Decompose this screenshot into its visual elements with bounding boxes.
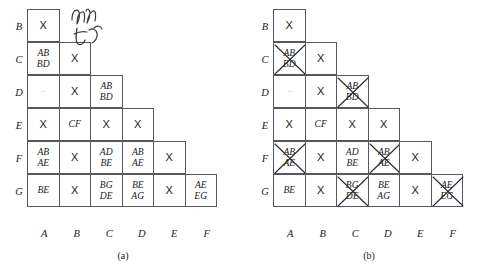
cell-text: X	[317, 152, 324, 163]
row-label-g: G	[12, 175, 26, 208]
row-label-f: F	[258, 142, 272, 175]
matrix-cell: X	[27, 9, 60, 42]
cell-text: AB	[37, 48, 49, 59]
matrix-cell: ABBD	[273, 42, 306, 75]
matrix-row: EXCFXX	[28, 109, 217, 142]
matrix-cell: BE	[273, 174, 306, 207]
matrix-cell: X	[59, 174, 92, 207]
row-label-d: D	[12, 76, 26, 109]
cell-text: AB	[283, 48, 295, 59]
matrix-cell: X	[27, 108, 60, 141]
matrix-cell: ABBD	[90, 75, 123, 108]
matrix-cell: X	[305, 75, 338, 108]
matrix-cell: BGDE	[336, 174, 369, 207]
matrix-cell: X	[273, 108, 306, 141]
cell-text: BD	[37, 59, 50, 70]
cell-text: AG	[377, 191, 390, 202]
matrix-cell: ABBD	[336, 75, 369, 108]
cell-text: BE	[378, 180, 390, 191]
matrix-row: FABAEXADBEABAEX	[28, 142, 217, 175]
column-labels-b: ABCDEF	[274, 228, 469, 239]
matrix-cell: –	[27, 75, 60, 108]
matrix-cell: X	[153, 141, 186, 174]
matrix-row: BX	[274, 10, 463, 43]
cell-text: X	[286, 20, 293, 31]
cell-text: BE	[283, 185, 295, 196]
cell-text: EG	[194, 191, 207, 202]
column-label-d: D	[372, 228, 405, 239]
matrix-row: D–XABBD	[28, 76, 217, 109]
cell-text: AB	[100, 81, 112, 92]
cell-text: AE	[441, 180, 453, 191]
matrix-cell: X	[336, 108, 369, 141]
cell-text: X	[412, 152, 419, 163]
column-label-a: A	[28, 228, 61, 239]
row-label-e: E	[12, 109, 26, 142]
figure-panel-b: BXCABBDXD–XABBDEXCFXXFABAEXADBEABAEXGBEX…	[246, 0, 492, 274]
row-label-f: F	[12, 142, 26, 175]
cell-text: AB	[378, 147, 390, 158]
cell-text: X	[317, 185, 324, 196]
column-label-c: C	[93, 228, 126, 239]
matrix-cell: X	[59, 75, 92, 108]
cell-text: X	[40, 119, 47, 130]
matrix-cell: ABAE	[368, 141, 401, 174]
panel-caption-b: (b)	[246, 250, 492, 261]
cell-text: X	[103, 119, 110, 130]
matrix-cell: AEEG	[185, 174, 218, 207]
cell-text: DE	[346, 191, 359, 202]
cell-text: CF	[315, 119, 327, 130]
cell-text: X	[317, 53, 324, 64]
cell-text: AB	[37, 147, 49, 158]
matrix-cell: X	[153, 174, 186, 207]
cell-text: AG	[131, 191, 144, 202]
row-label-e: E	[258, 109, 272, 142]
matrix-cell: CF	[59, 108, 92, 141]
matrix-cell: ADBE	[90, 141, 123, 174]
cell-text: X	[134, 119, 141, 130]
row-label-b: B	[12, 10, 26, 43]
matrix-cell: CF	[305, 108, 338, 141]
matrix-cell: AEEG	[431, 174, 464, 207]
matrix-cell: X	[305, 42, 338, 75]
matrix-cell: X	[305, 174, 338, 207]
cell-text: BE	[100, 158, 112, 169]
cell-text: X	[166, 152, 173, 163]
matrix-row: GBEXBGDEBEAGXAEEG	[274, 175, 463, 208]
matrix-row: FABAEXADBEABAEX	[274, 142, 463, 175]
cell-text: AE	[195, 180, 207, 191]
cell-text: BG	[100, 180, 113, 191]
cell-text: X	[412, 185, 419, 196]
matrix-cell: ABAE	[27, 141, 60, 174]
cell-text: AD	[346, 147, 359, 158]
cell-text: X	[286, 119, 293, 130]
cell-text: X	[71, 53, 78, 64]
cell-text: BD	[100, 92, 113, 103]
matrix-cell: BEAG	[122, 174, 155, 207]
column-label-a: A	[274, 228, 307, 239]
cell-text: DE	[100, 191, 113, 202]
column-label-f: F	[191, 228, 224, 239]
cell-text: X	[166, 185, 173, 196]
cell-text: AE	[378, 158, 390, 169]
matrix-cell: X	[90, 108, 123, 141]
column-label-e: E	[404, 228, 437, 239]
cell-text: X	[380, 119, 387, 130]
matrix-cell: BE	[27, 174, 60, 207]
column-label-e: E	[158, 228, 191, 239]
cell-text: AE	[37, 158, 49, 169]
cell-text: AB	[346, 81, 358, 92]
matrix-cell: X	[399, 141, 432, 174]
cell-text: –	[41, 86, 45, 97]
column-label-f: F	[437, 228, 470, 239]
matrix-row: GBEXBGDEBEAGXAEEG	[28, 175, 217, 208]
column-label-d: D	[126, 228, 159, 239]
matrix-cell: BEAG	[368, 174, 401, 207]
cell-text: X	[317, 86, 324, 97]
cell-text: CF	[69, 119, 81, 130]
row-label-g: G	[258, 175, 272, 208]
cell-text: X	[71, 152, 78, 163]
cell-text: –	[287, 86, 291, 97]
cell-text: AB	[132, 147, 144, 158]
matrix-row: CABBDX	[274, 43, 463, 76]
